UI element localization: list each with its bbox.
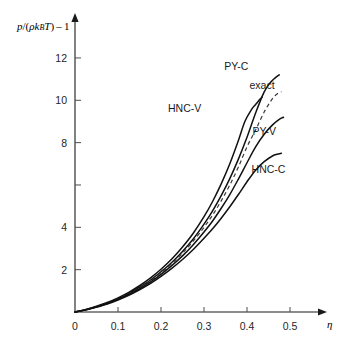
y-tick-label-8: 8 — [61, 137, 67, 149]
y-tick-label-10: 10 — [55, 94, 67, 106]
axes-layer — [71, 13, 327, 316]
y-axis-arrowhead — [71, 13, 78, 22]
curve-hnc-v — [75, 97, 262, 312]
curve-hnc-c — [75, 153, 281, 312]
x-axis-title: η — [327, 318, 332, 330]
x-tick-label-0_5: 0.5 — [283, 320, 298, 332]
x-tick-label-0_3: 0.3 — [197, 320, 212, 332]
curve-label-hnc-v: HNC-V — [168, 102, 201, 114]
y-tick-label-4: 4 — [61, 221, 67, 233]
x-tick-label-0_2: 0.2 — [154, 320, 169, 332]
x-axis-arrowhead — [318, 308, 327, 315]
chart-canvas: 00.10.20.30.40.52481012 HNC-VPY-CexactPY… — [0, 0, 350, 346]
curve-exact — [75, 92, 281, 312]
curve-label-exact: exact — [249, 79, 274, 91]
ticks-layer — [75, 58, 290, 312]
y-axis-title-minus-one: – 1 — [54, 20, 69, 32]
y-axis-title: p/(ρkBT) – 1 — [17, 20, 70, 32]
curve-label-py-c: PY-C — [224, 60, 249, 72]
y-tick-label-12: 12 — [55, 52, 67, 64]
curve-label-hnc-c: HNC-C — [252, 163, 286, 175]
curve-py-v — [75, 117, 284, 312]
tick-labels-layer: 00.10.20.30.40.52481012 — [55, 52, 297, 332]
chart-figure: 00.10.20.30.40.52481012 HNC-VPY-CexactPY… — [0, 0, 350, 346]
x-tick-label-0_1: 0.1 — [111, 320, 126, 332]
x-tick-label-0: 0 — [72, 320, 78, 332]
curve-label-py-v: PY-V — [252, 125, 276, 137]
y-tick-label-2: 2 — [61, 264, 67, 276]
x-tick-label-0_4: 0.4 — [240, 320, 255, 332]
